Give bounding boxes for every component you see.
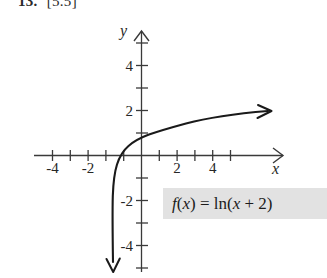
function-equation: f(x) = ln(x + 2) bbox=[172, 190, 272, 217]
equation-arg-var: x bbox=[233, 194, 241, 213]
log-curve bbox=[113, 111, 268, 262]
y-tick-label-2: 2 bbox=[126, 103, 134, 120]
figure-root: 13. [5.5] bbox=[0, 0, 327, 278]
equation-equals: = bbox=[200, 194, 210, 213]
x-tick-label--2: -2 bbox=[82, 160, 95, 177]
y-tick-label--2: -2 bbox=[121, 193, 134, 210]
equation-arg-close: ) bbox=[267, 194, 273, 213]
y-tick-label-4: 4 bbox=[126, 58, 134, 75]
equation-var: x bbox=[182, 194, 190, 213]
x-tick-label--4: -4 bbox=[46, 160, 59, 177]
y-tick-label--4: -4 bbox=[121, 238, 134, 255]
equation-ln: ln bbox=[214, 194, 227, 213]
equation-close-paren: ) bbox=[190, 194, 196, 213]
x-tick-label-4: 4 bbox=[209, 160, 217, 177]
equation-plus: + bbox=[244, 194, 254, 213]
x-tick-label-2: 2 bbox=[173, 160, 181, 177]
equation-arg-const: 2 bbox=[258, 194, 267, 213]
x-axis-label: x bbox=[272, 160, 279, 178]
y-axis-label: y bbox=[120, 22, 127, 40]
coordinate-plot bbox=[0, 0, 327, 278]
